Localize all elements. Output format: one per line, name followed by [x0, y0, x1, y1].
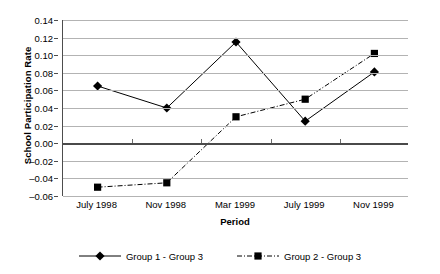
x-axis-tick-label: Mar 1999: [215, 199, 255, 210]
y-axis-tick-mark: [54, 90, 58, 91]
legend-item-1[interactable]: Group 1 - Group 3: [79, 250, 203, 262]
chart-container: School Participation Rate 0.140.120.100.…: [0, 0, 440, 274]
x-axis-tick-mark: [271, 139, 272, 143]
y-axis-tick-labels: 0.140.120.100.080.060.040.020.00–0.02–0.…: [0, 20, 58, 196]
y-axis-tick-mark: [54, 55, 58, 56]
y-axis-tick-mark: [54, 108, 58, 109]
y-axis-tick-mark: [54, 196, 58, 197]
x-axis-tick-labels: July 1998Nov 1998Mar 1999July 1999Nov 19…: [62, 199, 408, 215]
plot-area: [62, 20, 408, 196]
y-axis-tick-label: –0.06: [1, 192, 53, 201]
x-axis-tick-label: July 1998: [76, 199, 117, 210]
legend-label: Group 1 - Group 3: [126, 251, 203, 262]
y-axis-tick-label: 0.10: [1, 51, 53, 60]
gridline: [63, 20, 408, 21]
x-axis-tick-label: Nov 1999: [353, 199, 394, 210]
x-axis-tick-mark: [201, 139, 202, 143]
gridline: [63, 126, 408, 127]
gridline: [63, 178, 408, 179]
y-axis-tick-label: –0.04: [1, 174, 53, 183]
y-axis-tick-label: 0.14: [1, 16, 53, 25]
gridline: [63, 108, 408, 109]
y-axis-tick-label: 0.04: [1, 104, 53, 113]
series-line-1: [98, 42, 375, 121]
diamond-marker: [95, 251, 104, 260]
square-marker: [163, 179, 170, 186]
y-axis-tick-mark: [54, 38, 58, 39]
diamond-marker: [93, 81, 102, 90]
y-axis-tick-label: 0.08: [1, 68, 53, 77]
y-axis-tick-label: 0.06: [1, 86, 53, 95]
y-axis-tick-mark: [54, 178, 58, 179]
y-axis-tick-mark: [54, 126, 58, 127]
square-marker: [254, 252, 261, 259]
square-marker: [94, 184, 101, 191]
gridline: [63, 73, 408, 74]
gridline: [63, 196, 408, 197]
x-axis-tick-mark: [132, 139, 133, 143]
gridline: [63, 143, 408, 144]
gridline: [63, 161, 408, 162]
legend-label: Group 2 - Group 3: [284, 251, 361, 262]
chart-legend: Group 1 - Group 3Group 2 - Group 3: [0, 245, 440, 267]
y-axis-tick-label: 0.00: [1, 139, 53, 148]
legend-key-diamond: [79, 250, 121, 262]
gridline: [63, 38, 408, 39]
legend-item-2[interactable]: Group 2 - Group 3: [237, 250, 361, 262]
x-axis-title: Period: [62, 216, 408, 227]
y-axis-tick-label: 0.12: [1, 33, 53, 42]
y-axis-tick-label: –0.02: [1, 156, 53, 165]
x-axis-tick-label: July 1999: [284, 199, 325, 210]
y-axis-tick-label: 0.02: [1, 121, 53, 130]
square-marker: [302, 96, 309, 103]
square-marker: [232, 113, 239, 120]
legend-key-square: [237, 250, 279, 262]
y-axis-tick-mark: [54, 73, 58, 74]
y-axis-tick-mark: [54, 161, 58, 162]
gridline: [63, 90, 408, 91]
gridline: [63, 55, 408, 56]
x-axis-tick-label: Nov 1998: [145, 199, 186, 210]
y-axis-tick-mark: [54, 143, 58, 144]
y-axis-tick-mark: [54, 20, 58, 21]
x-axis-tick-mark: [340, 139, 341, 143]
